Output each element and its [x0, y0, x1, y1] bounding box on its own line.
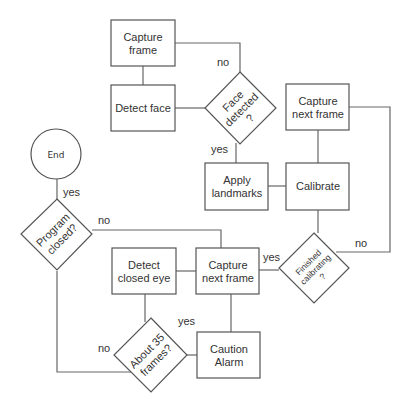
node-label-line: closed eye: [118, 272, 171, 284]
node-label-line: Detect face: [115, 102, 171, 114]
decision-diamond: [21, 199, 92, 270]
process-box: [111, 20, 175, 66]
node-capture-next-frame-top: Capture next frame: [286, 84, 349, 130]
label-program-closed-no: no: [98, 214, 110, 226]
node-caution-alarm: Caution Alarm: [197, 332, 260, 378]
node-label-line: Apply: [223, 174, 251, 186]
process-box: [196, 248, 259, 294]
label-about-35-no: no: [98, 342, 110, 354]
label-about-35-yes: yes: [178, 315, 196, 327]
node-label-line: Alarm: [215, 356, 244, 368]
node-capture-frame: Capture frame: [111, 20, 175, 66]
label-finished-calibrating-yes: yes: [263, 251, 281, 263]
process-box: [286, 84, 349, 130]
node-label-line: Detect: [128, 259, 160, 271]
node-detect-face: Detect face: [111, 85, 175, 131]
node-label-line: Capture: [208, 259, 247, 271]
flowchart: no yes no yes no yes no yes Capture fram…: [0, 0, 409, 407]
node-label-line: Capture: [298, 95, 337, 107]
node-label-line: landmarks: [212, 187, 263, 199]
edge-face-detected-no-to-capture-frame: [175, 43, 240, 73]
node-label-line: Capture: [123, 31, 162, 43]
node-label-line: next frame: [202, 272, 254, 284]
label-face-detected-no: no: [217, 56, 229, 68]
process-box: [112, 248, 176, 294]
node-label-line: frame: [129, 44, 157, 56]
node-program-closed: Program closed?: [21, 199, 92, 270]
node-finished-calibrating: Finished calibrating ?: [279, 233, 349, 303]
label-face-detected-yes: yes: [211, 143, 229, 155]
node-label-line: Caution: [210, 343, 248, 355]
node-label-line: End: [47, 150, 64, 160]
label-program-closed-yes: yes: [63, 186, 81, 198]
node-capture-next-frame-main: Capture next frame: [196, 248, 259, 294]
node-label-line: next frame: [292, 108, 344, 120]
node-detect-closed-eye: Detect closed eye: [112, 248, 176, 294]
edge-program-closed-no-to-capture-next-main: [92, 230, 221, 248]
process-box: [197, 332, 260, 378]
node-apply-landmarks: Apply landmarks: [205, 163, 268, 210]
label-finished-calibrating-no: no: [355, 237, 367, 249]
node-label-line: Calibrate: [296, 180, 340, 192]
node-about-35-frames: About 35 frames?: [114, 318, 187, 392]
node-face-detected: Face detected ?: [205, 72, 276, 144]
node-calibrate: Calibrate: [286, 163, 349, 210]
node-end: End: [31, 129, 81, 179]
